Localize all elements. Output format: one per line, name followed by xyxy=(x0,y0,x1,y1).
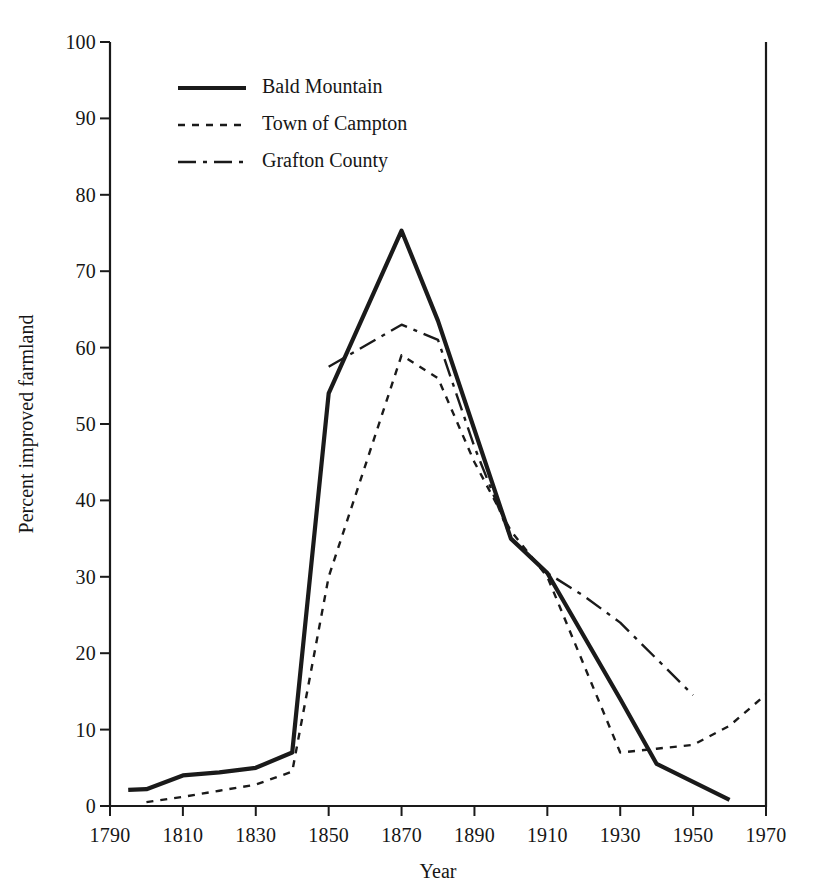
series-line-bald-mountain xyxy=(128,231,729,800)
y-tick-label: 0 xyxy=(40,795,96,818)
x-tick-label: 1970 xyxy=(746,824,787,847)
y-axis-title: Percent improved farmland xyxy=(15,315,38,534)
x-tick-label: 1890 xyxy=(454,824,495,847)
series-line-town-of-campton xyxy=(146,355,766,802)
x-tick-label: 1830 xyxy=(235,824,276,847)
y-tick-label: 90 xyxy=(40,107,96,130)
y-tick-label: 20 xyxy=(40,642,96,665)
plot-canvas xyxy=(0,0,814,895)
x-tick-label: 1870 xyxy=(381,824,422,847)
y-tick-label: 100 xyxy=(40,31,96,54)
y-tick-label: 50 xyxy=(40,413,96,436)
chart-figure: 0102030405060708090100 17901810183018501… xyxy=(0,0,814,895)
y-tick-label: 10 xyxy=(40,718,96,741)
x-tick-label: 1810 xyxy=(162,824,203,847)
y-tick-label: 60 xyxy=(40,336,96,359)
y-tick-label: 40 xyxy=(40,489,96,512)
series-layer xyxy=(128,231,766,802)
y-tick-label: 30 xyxy=(40,565,96,588)
x-tick-label: 1930 xyxy=(600,824,641,847)
series-line-grafton-county xyxy=(329,325,693,696)
x-axis-title: Year xyxy=(420,860,457,883)
x-tick-label: 1850 xyxy=(308,824,349,847)
axis-layer xyxy=(100,42,766,816)
y-tick-label: 80 xyxy=(40,183,96,206)
x-tick-label: 1950 xyxy=(673,824,714,847)
legend-sample-lines xyxy=(178,88,246,162)
axis-frame xyxy=(110,42,766,806)
x-tick-label: 1910 xyxy=(527,824,568,847)
x-tick-label: 1790 xyxy=(90,824,131,847)
y-tick-label: 70 xyxy=(40,260,96,283)
